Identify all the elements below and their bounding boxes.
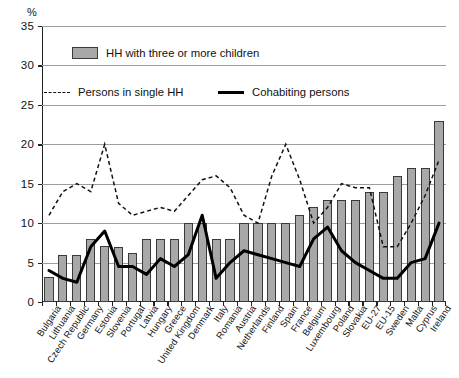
- y-axis-tick-label: 30: [4, 59, 34, 71]
- y-axis-tick-mark: [38, 65, 42, 66]
- y-axis-tick-mark: [38, 223, 42, 224]
- legend-item-bars: HH with three or more children: [72, 47, 259, 59]
- legend-solid-swatch: [218, 91, 244, 94]
- legend-dashed-label: Persons in single HH: [78, 86, 183, 98]
- y-axis-tick-label: 5: [4, 257, 34, 269]
- y-axis-tick-label: 0: [4, 296, 34, 308]
- solid-line-cohabiting-persons: [49, 215, 439, 282]
- y-axis-tick-mark: [38, 263, 42, 264]
- legend-bar-swatch: [72, 47, 98, 59]
- chart-figure: % 05101520253035 BulgariaLithuaniaCzech …: [0, 0, 459, 378]
- dashed-line-persons-in-single-hh: [49, 144, 439, 247]
- legend-item-dashed: Persons in single HH: [44, 86, 183, 98]
- y-axis-tick-mark: [38, 144, 42, 145]
- y-axis-tick-label: 15: [4, 178, 34, 190]
- plot-area: [42, 26, 446, 302]
- y-axis-tick-label: 20: [4, 138, 34, 150]
- legend-solid-label: Cohabiting persons: [252, 86, 349, 98]
- y-axis-tick-label: 25: [4, 99, 34, 111]
- y-axis-tick-mark: [38, 184, 42, 185]
- y-axis-unit-label: %: [27, 6, 37, 18]
- x-axis-labels: BulgariaLithuaniaCzech RepublicGermanyEs…: [42, 303, 446, 378]
- line-series: [42, 26, 446, 302]
- legend-dashed-swatch: [44, 92, 70, 93]
- legend-item-solid: Cohabiting persons: [218, 86, 349, 98]
- y-axis-tick-label: 35: [4, 20, 34, 32]
- y-axis-tick-label: 10: [4, 217, 34, 229]
- legend-bar-label: HH with three or more children: [106, 47, 259, 59]
- y-axis-tick-mark: [38, 26, 42, 27]
- y-axis-tick-mark: [38, 105, 42, 106]
